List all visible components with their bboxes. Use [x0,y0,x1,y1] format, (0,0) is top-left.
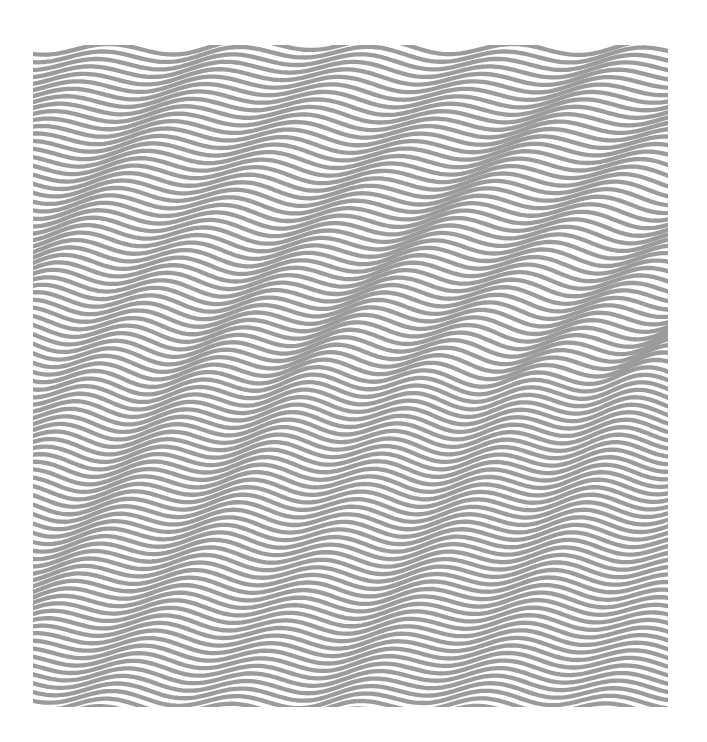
wave-line [33,691,668,707]
wave-pattern-artwork [33,45,668,707]
wave-line [33,247,668,266]
image-canvas [0,0,707,742]
wave-line [33,706,668,707]
wave-line [33,578,668,597]
wave-lines-graphic [33,45,668,707]
wave-line [33,570,668,589]
